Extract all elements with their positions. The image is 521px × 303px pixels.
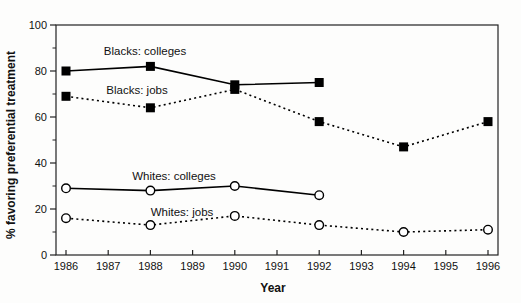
x-axis-tick-label: 1990 <box>223 260 247 272</box>
data-point-open-circle <box>315 221 324 230</box>
data-point-open-circle <box>62 184 71 193</box>
x-axis-tick-label: 1994 <box>391 260 415 272</box>
series-label-blacks-jobs: Blacks: jobs <box>106 84 168 96</box>
x-axis-tick-label: 1986 <box>54 260 78 272</box>
data-point-filled-square <box>146 62 155 71</box>
data-point-filled-square <box>230 85 239 94</box>
data-point-filled-square <box>399 142 408 151</box>
x-axis-tick-label: 1992 <box>307 260 331 272</box>
x-axis-tick-label: 1991 <box>265 260 289 272</box>
y-axis-tick-label: 40 <box>35 157 47 169</box>
y-axis-title: % favoring preferential treatment <box>4 51 18 239</box>
line-chart-canvas: Year % favoring preferential treatment B… <box>0 0 521 303</box>
x-axis-tick-label: 1993 <box>349 260 373 272</box>
data-point-open-circle <box>484 225 493 234</box>
data-point-filled-square <box>62 92 71 101</box>
plot-frame <box>56 25 498 255</box>
series-label-blacks-colleges: Blacks: colleges <box>104 45 187 57</box>
x-axis-tick-label: 1987 <box>96 260 120 272</box>
series-line-whites-jobs <box>66 216 488 232</box>
data-point-open-circle <box>231 212 240 221</box>
x-axis-tick-label: 1995 <box>434 260 458 272</box>
series-label-whites-colleges: Whites: colleges <box>132 170 216 182</box>
plot-area: 0204060801001986198719881989199019911992… <box>29 19 501 272</box>
chart-figure: Year % favoring preferential treatment B… <box>0 0 521 303</box>
series-label-whites-jobs: Whites: jobs <box>151 206 214 218</box>
x-axis-tick-label: 1988 <box>138 260 162 272</box>
x-axis-tick-label: 1996 <box>476 260 500 272</box>
data-point-filled-square <box>315 78 324 87</box>
data-point-open-circle <box>146 186 155 195</box>
data-point-open-circle <box>62 214 71 223</box>
y-axis-tick-label: 100 <box>29 19 47 31</box>
series-line-whites-colleges <box>66 186 319 195</box>
data-point-open-circle <box>231 182 240 191</box>
data-point-open-circle <box>399 228 408 237</box>
data-point-open-circle <box>146 221 155 230</box>
data-point-filled-square <box>62 67 71 76</box>
data-point-filled-square <box>315 117 324 126</box>
x-axis-title: Year <box>260 281 286 295</box>
y-axis-tick-label: 0 <box>41 249 47 261</box>
x-axis-tick-label: 1989 <box>180 260 204 272</box>
y-axis-tick-label: 80 <box>35 65 47 77</box>
data-point-filled-square <box>484 117 493 126</box>
data-point-open-circle <box>315 191 324 200</box>
y-axis-tick-label: 60 <box>35 111 47 123</box>
data-point-filled-square <box>146 103 155 112</box>
y-axis-tick-label: 20 <box>35 203 47 215</box>
series-line-blacks-colleges <box>66 66 319 84</box>
series-line-blacks-jobs <box>66 89 488 146</box>
